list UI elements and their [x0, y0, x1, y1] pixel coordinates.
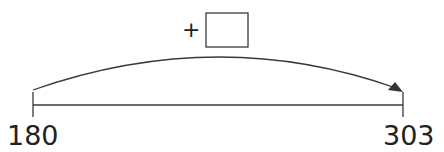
- end-label: 303: [383, 122, 435, 149]
- start-label: 180: [7, 122, 59, 149]
- plus-sign: +: [182, 19, 200, 41]
- arrowhead-icon: [388, 82, 403, 92]
- number-line-diagram: [0, 0, 444, 152]
- jump-arc: [33, 57, 396, 90]
- answer-box[interactable]: [206, 13, 248, 47]
